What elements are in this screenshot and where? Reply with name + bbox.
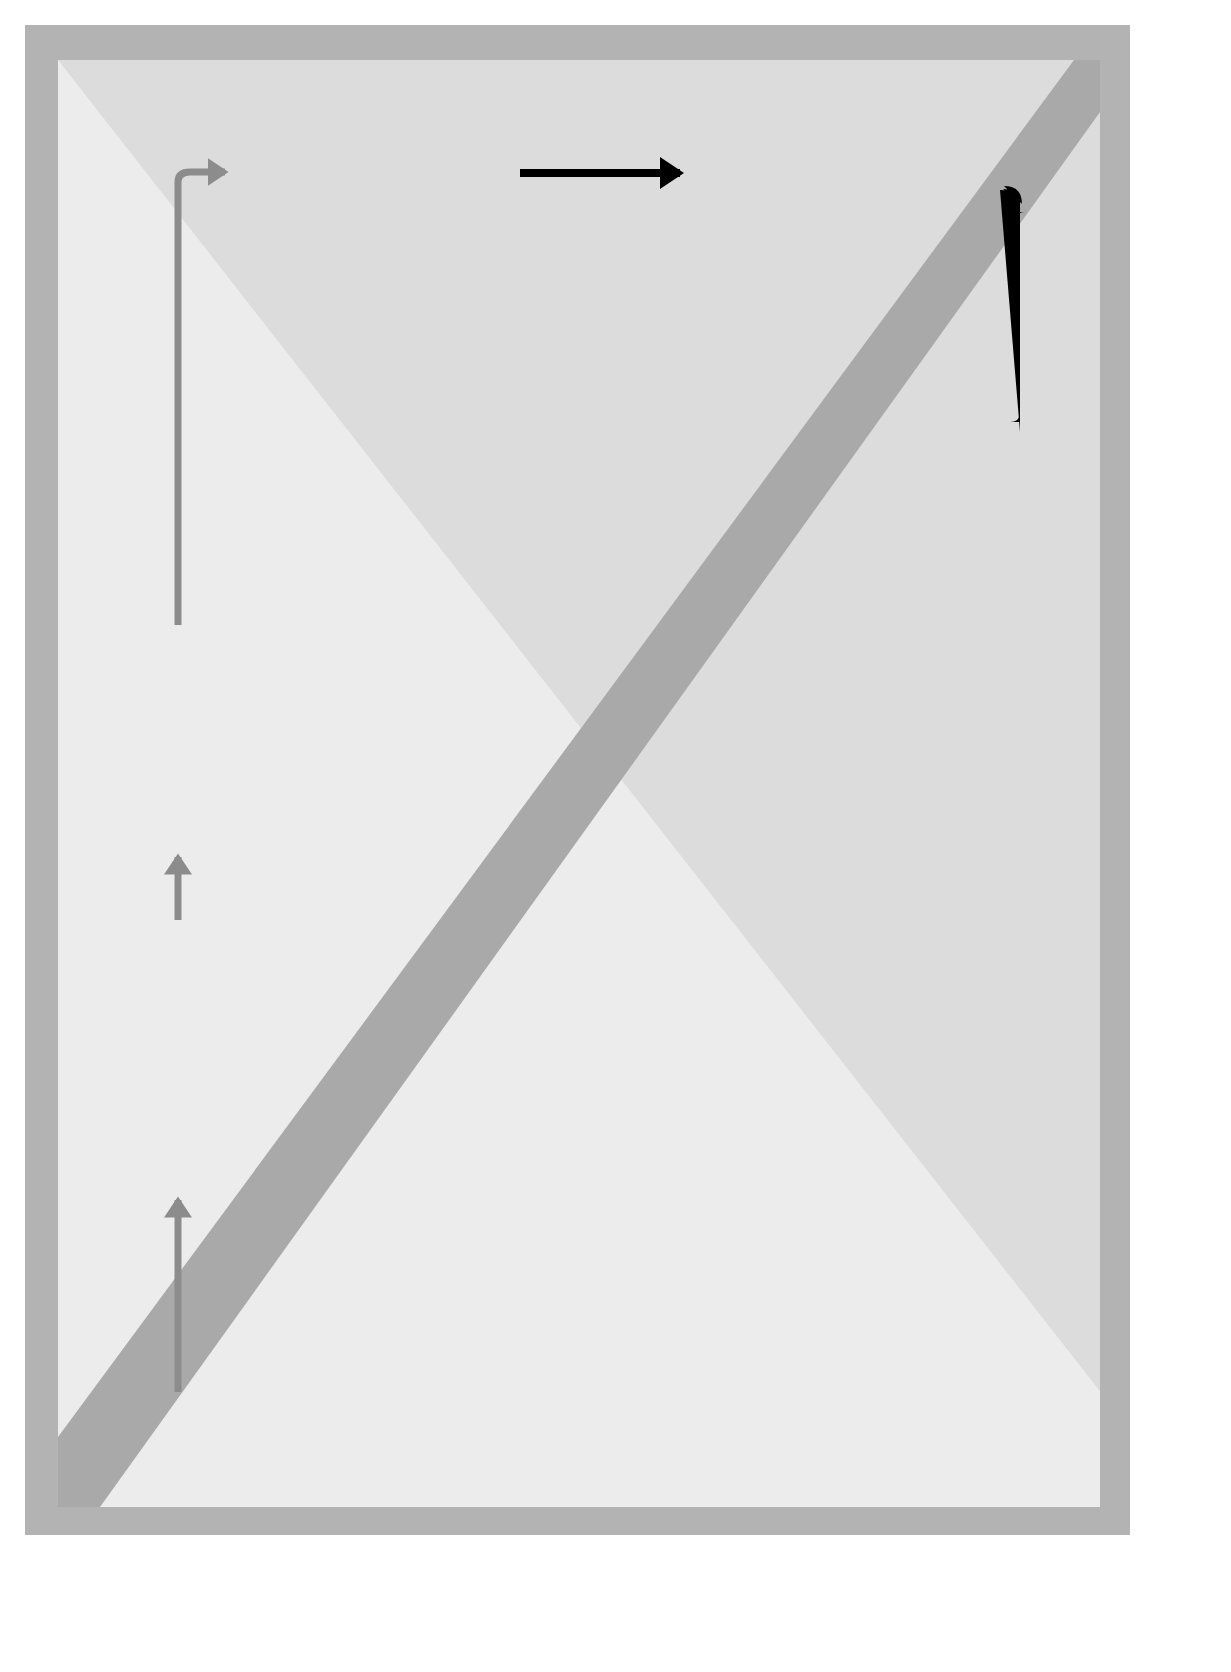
communication-diagram: [0, 0, 1231, 1672]
flow-arrows: [0, 0, 1231, 1672]
